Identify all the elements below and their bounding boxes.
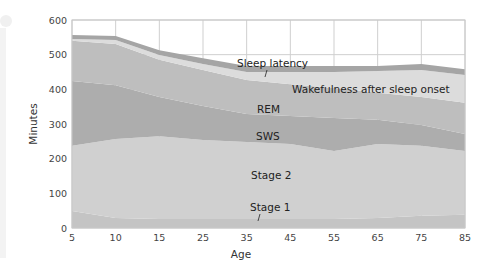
x-tick-label: 45 xyxy=(284,232,296,243)
x-tick-label: 65 xyxy=(372,232,384,243)
x-tick-label: 5 xyxy=(69,232,75,243)
rem-label: REM xyxy=(257,103,280,115)
y-tick-label: 200 xyxy=(49,153,67,164)
stage2-label: Stage 2 xyxy=(251,169,291,181)
stacked-area-chart: 0100200300400500600 5101525354555657585 … xyxy=(0,0,494,277)
y-tick-label: 0 xyxy=(61,223,67,234)
x-tick-label: 35 xyxy=(241,232,253,243)
y-tick-label: 600 xyxy=(49,15,67,26)
y-tick-label: 400 xyxy=(49,84,67,95)
sws-label: SWS xyxy=(256,130,280,142)
y-tick-label: 300 xyxy=(49,119,67,130)
x-tick-label: 15 xyxy=(153,232,165,243)
wakefulness-label: Wakefulness after sleep onset xyxy=(292,83,450,95)
x-tick-label: 10 xyxy=(110,232,122,243)
x-tick-label: 25 xyxy=(197,232,209,243)
y-axis-label: Minutes xyxy=(27,103,39,144)
x-tick-label: 75 xyxy=(415,232,427,243)
y-axis-ticks: 0100200300400500600 xyxy=(49,15,67,234)
x-axis-ticks: 5101525354555657585 xyxy=(69,232,471,243)
sleep-latency-label: Sleep latency xyxy=(237,57,308,69)
y-tick-label: 500 xyxy=(49,49,67,60)
y-tick-label: 100 xyxy=(49,188,67,199)
x-tick-label: 55 xyxy=(328,232,340,243)
x-tick-label: 85 xyxy=(459,232,471,243)
x-axis-label: Age xyxy=(231,248,251,260)
stage1-label: Stage 1 xyxy=(250,201,290,213)
